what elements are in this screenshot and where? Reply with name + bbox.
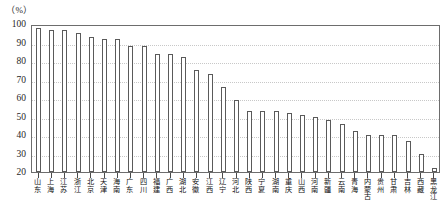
- bar: [36, 28, 41, 172]
- y-axis-tick: 70: [17, 76, 27, 86]
- bars-container: [32, 26, 439, 172]
- bar: [287, 113, 292, 172]
- bar: [260, 111, 265, 172]
- y-axis-tick: 20: [17, 168, 27, 178]
- x-axis-label: 湖南: [270, 178, 280, 193]
- bar: [168, 54, 173, 172]
- bar: [49, 30, 54, 172]
- bar: [128, 46, 133, 172]
- x-axis-label: 海南: [112, 178, 122, 193]
- bar: [234, 100, 239, 172]
- x-axis-label: 宁夏: [257, 178, 267, 193]
- bar: [142, 46, 147, 172]
- x-axis-label: 上海: [46, 178, 56, 193]
- bar: [208, 74, 213, 172]
- x-axis-label: 天津: [99, 178, 109, 193]
- bar: [102, 39, 107, 172]
- x-axis-label: 辽宁: [217, 178, 227, 193]
- x-axis-label: 陕西: [244, 178, 254, 193]
- x-axis-label: 广东: [125, 178, 135, 193]
- x-axis-label: 浙江: [72, 178, 82, 193]
- bar: [274, 111, 279, 172]
- bar: [76, 33, 81, 172]
- x-axis-label: 四川: [138, 178, 148, 193]
- x-axis-label: 福建: [151, 178, 161, 193]
- x-axis-category-labels: 山东上海江苏浙江北京天津海南广东四川福建广西湖北安徽江西辽宁河北陕西宁夏湖南重庆…: [31, 178, 440, 217]
- x-axis-label: 河北: [231, 178, 241, 193]
- y-axis-tick: 90: [17, 39, 27, 49]
- x-axis-label: 吉林: [402, 178, 412, 193]
- bar: [247, 111, 252, 172]
- bar: [406, 141, 411, 172]
- y-axis-tick: 60: [17, 94, 27, 104]
- x-axis-label: 河南: [310, 178, 320, 193]
- bar: [313, 117, 318, 173]
- x-axis-label: 江苏: [59, 178, 69, 193]
- bar: [181, 57, 186, 172]
- y-axis-tick: 80: [17, 57, 27, 67]
- bar: [432, 168, 437, 172]
- bar: [392, 135, 397, 172]
- x-axis-label: 青海: [349, 178, 359, 193]
- bar: [194, 70, 199, 172]
- x-axis-label: 贵州: [376, 178, 386, 193]
- y-axis-tick-labels: 1009080706050403020: [0, 25, 29, 173]
- bar: [353, 131, 358, 172]
- y-axis-tick: 100: [12, 20, 26, 30]
- bar-chart: （%） 1009080706050403020 山东上海江苏浙江北京天津海南广东…: [0, 0, 448, 217]
- y-axis-tick: 40: [17, 131, 27, 141]
- y-axis-tick: 50: [17, 113, 27, 123]
- x-axis-label: 内蒙古: [362, 178, 372, 201]
- x-axis-label: 安徽: [191, 178, 201, 193]
- x-axis-label: 甘肃: [389, 178, 399, 193]
- bar: [62, 30, 67, 172]
- x-axis-label: 新疆: [323, 178, 333, 193]
- x-axis-label: 云南: [336, 178, 346, 193]
- bar: [221, 87, 226, 172]
- x-axis-label: 山东: [33, 178, 43, 193]
- bar: [300, 115, 305, 172]
- x-axis-label: 北京: [85, 178, 95, 193]
- x-axis-label: 广西: [165, 178, 175, 193]
- x-axis-label: 黑龙江: [428, 178, 438, 201]
- x-axis-label: 山西: [296, 178, 306, 193]
- bar: [326, 120, 331, 172]
- bar: [155, 54, 160, 172]
- plot-area: [31, 25, 440, 173]
- bar: [379, 135, 384, 172]
- bar: [340, 124, 345, 172]
- x-axis-label: 江西: [204, 178, 214, 193]
- x-axis-label: 西藏: [415, 178, 425, 193]
- x-axis-label: 重庆: [283, 178, 293, 193]
- bar: [115, 39, 120, 172]
- y-axis-tick: 30: [17, 150, 27, 160]
- bar: [366, 135, 371, 172]
- bar: [89, 37, 94, 172]
- y-axis-unit-label: （%）: [6, 3, 33, 16]
- x-axis-label: 湖北: [178, 178, 188, 193]
- bar: [419, 154, 424, 173]
